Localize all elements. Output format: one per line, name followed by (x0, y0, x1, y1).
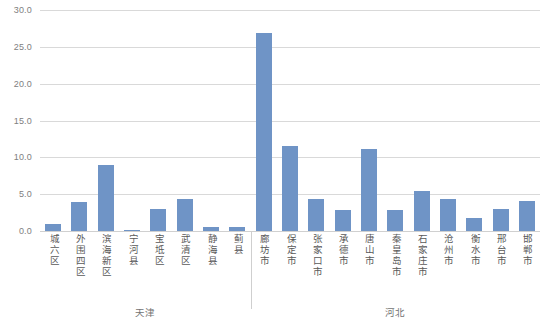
category-label: 蓟县 (231, 234, 244, 256)
bar (229, 227, 245, 231)
category-label: 沧州市 (441, 234, 454, 267)
bars-layer (40, 10, 540, 231)
bar (177, 199, 193, 231)
bar (308, 199, 324, 231)
gridline (40, 231, 540, 232)
y-tick-label: 20.0 (14, 79, 32, 89)
plot-area (40, 10, 540, 231)
y-tick-label: 25.0 (14, 42, 32, 52)
bar (282, 146, 298, 231)
bar (466, 218, 482, 231)
bar (387, 210, 403, 231)
category-label: 张家口市 (310, 234, 323, 278)
category-label: 武清区 (178, 234, 191, 267)
bar (361, 149, 377, 232)
category-label: 宁河县 (126, 234, 139, 267)
bar (45, 224, 61, 231)
category-label: 邢台市 (494, 234, 507, 267)
bar (519, 201, 535, 231)
y-tick-label: 5.0 (19, 189, 32, 199)
bar (124, 230, 140, 231)
category-label: 唐山市 (362, 234, 375, 267)
category-label: 滨海新区 (99, 234, 112, 278)
group-axis-labels: 天津河北 (0, 305, 543, 329)
category-label: 外围四区 (73, 234, 86, 278)
bar (71, 202, 87, 231)
category-label: 廊坊市 (257, 234, 270, 267)
bar (98, 165, 114, 231)
y-tick-label: 15.0 (14, 116, 32, 126)
group-label: 天津 (135, 305, 156, 319)
category-label: 石家庄市 (415, 234, 428, 278)
bar (150, 209, 166, 231)
category-label: 衡水市 (468, 234, 481, 267)
bar (440, 199, 456, 231)
y-axis: 0.05.010.015.020.025.030.0 (0, 0, 36, 333)
bar (203, 227, 219, 231)
bar-chart: 0.05.010.015.020.025.030.0 城六区外围四区滨海新区宁河… (0, 0, 543, 333)
bar (414, 191, 430, 231)
y-tick-label: 0.0 (19, 226, 32, 236)
bar (335, 210, 351, 231)
category-label: 宝坻区 (152, 234, 165, 267)
category-label: 秦皇岛市 (389, 234, 402, 278)
category-label: 承德市 (336, 234, 349, 267)
category-label: 城六区 (47, 234, 60, 267)
y-tick-label: 10.0 (14, 152, 32, 162)
category-label: 邯郸市 (520, 234, 533, 267)
bar (493, 209, 509, 231)
category-label: 静海县 (205, 234, 218, 267)
category-label: 保定市 (284, 234, 297, 267)
category-axis-labels: 城六区外围四区滨海新区宁河县宝坻区武清区静海县蓟县廊坊市保定市张家口市承德市唐山… (40, 234, 540, 300)
y-tick-label: 30.0 (14, 5, 32, 15)
bar (256, 33, 272, 231)
group-label: 河北 (385, 305, 406, 319)
